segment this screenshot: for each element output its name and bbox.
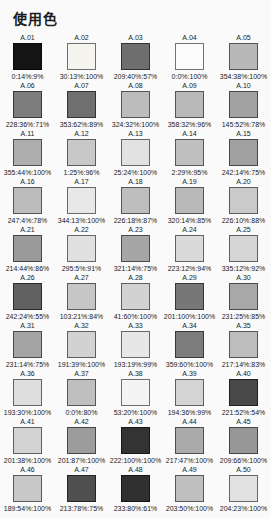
swatch-value: 53:20%:100% xyxy=(109,408,163,417)
color-swatch xyxy=(67,43,96,70)
color-swatch xyxy=(121,91,150,118)
swatch-label: A.15 xyxy=(217,129,271,138)
swatch-cell: A.15242:14%:75% xyxy=(217,129,271,177)
swatch-value: 226:10%:88% xyxy=(217,216,271,225)
swatch-value: 189:54%:100% xyxy=(1,504,55,513)
swatch-cell: A.040:0%:100% xyxy=(163,33,217,81)
swatch-label: A.06 xyxy=(1,81,55,90)
swatch-value: 0:0%:80% xyxy=(55,408,109,417)
swatch-value: 344:13%:100% xyxy=(55,216,109,225)
swatch-cell: A.2841:60%:100% xyxy=(109,273,163,321)
swatch-cell: A.48233:80%:61% xyxy=(109,465,163,513)
swatch-label: A.24 xyxy=(163,225,217,234)
swatch-value: 353:62%:89% xyxy=(55,120,109,129)
swatch-value: 233:80%:61% xyxy=(109,504,163,513)
color-swatch xyxy=(67,139,96,166)
swatch-label: A.44 xyxy=(163,417,217,426)
swatch-value: 209:66%:100% xyxy=(217,456,271,465)
swatch-cell: A.29201:100%:100% xyxy=(163,273,217,321)
swatch-label: A.43 xyxy=(109,417,163,426)
swatch-label: A.31 xyxy=(1,321,55,330)
color-swatch xyxy=(121,379,150,406)
swatch-label: A.41 xyxy=(1,417,55,426)
swatch-value: 203:50%:100% xyxy=(163,504,217,513)
swatch-value: 247:4%:78% xyxy=(1,216,55,225)
color-swatch xyxy=(229,427,258,454)
swatch-value: 1:25%:96% xyxy=(55,168,109,177)
swatch-cell: A.41201:38%:100% xyxy=(1,417,55,465)
color-swatch xyxy=(67,331,96,358)
swatch-label: A.23 xyxy=(109,225,163,234)
color-swatch xyxy=(121,475,150,502)
swatch-label: A.05 xyxy=(217,33,271,42)
color-swatch xyxy=(121,283,150,310)
swatch-value: 226:18%:87% xyxy=(109,216,163,225)
color-swatch xyxy=(13,331,42,358)
swatch-label: A.40 xyxy=(217,369,271,378)
swatch-value: 223:12%:94% xyxy=(163,264,217,273)
color-swatch xyxy=(175,91,204,118)
swatch-cell: A.25335:12%:92% xyxy=(217,225,271,273)
swatch-cell: A.20226:10%:88% xyxy=(217,177,271,225)
swatch-cell: A.19320:14%:85% xyxy=(163,177,217,225)
swatch-cell: A.30231:25%:85% xyxy=(217,273,271,321)
swatch-label: A.16 xyxy=(1,177,55,186)
swatch-cell: A.43222:100%:100% xyxy=(109,417,163,465)
color-swatch xyxy=(229,43,258,70)
swatch-label: A.38 xyxy=(109,369,163,378)
color-swatch xyxy=(175,43,204,70)
swatch-cell: A.40221:52%:54% xyxy=(217,369,271,417)
color-swatch xyxy=(175,283,204,310)
swatch-value: 201:87%:100% xyxy=(55,456,109,465)
swatch-label: A.32 xyxy=(55,321,109,330)
swatch-cell: A.35217:14%:83% xyxy=(217,321,271,369)
swatch-cell: A.16247:4%:78% xyxy=(1,177,55,225)
swatch-value: 358:32%:96% xyxy=(163,120,217,129)
swatch-label: A.02 xyxy=(55,33,109,42)
swatch-label: A.18 xyxy=(109,177,163,186)
swatch-label: A.30 xyxy=(217,273,271,282)
swatch-cell: A.36193:30%:100% xyxy=(1,369,55,417)
swatch-label: A.20 xyxy=(217,177,271,186)
swatch-cell: A.39194:36%:99% xyxy=(163,369,217,417)
swatch-cell: A.33193:19%:99% xyxy=(109,321,163,369)
swatch-value: 242:14%:75% xyxy=(217,168,271,177)
color-swatch xyxy=(175,379,204,406)
color-swatch xyxy=(13,187,42,214)
swatch-value: 191:39%:100% xyxy=(55,360,109,369)
palette-page: 使用色 A.010:14%:9%A.0230:13%:100%A.03209:4… xyxy=(0,0,271,519)
color-swatch xyxy=(229,475,258,502)
swatch-value: 193:19%:99% xyxy=(109,360,163,369)
swatch-cell: A.03209:40%:57% xyxy=(109,33,163,81)
swatch-cell: A.05354:38%:100% xyxy=(217,33,271,81)
swatch-cell: A.24223:12%:94% xyxy=(163,225,217,273)
swatch-value: 231:14%:75% xyxy=(1,360,55,369)
swatch-label: A.08 xyxy=(109,81,163,90)
swatch-cell: A.47213:78%:75% xyxy=(55,465,109,513)
page-title: 使用色 xyxy=(13,8,271,28)
swatch-value: 324:32%:100% xyxy=(109,120,163,129)
swatch-value: 103:21%:84% xyxy=(55,312,109,321)
swatch-label: A.25 xyxy=(217,225,271,234)
color-swatch xyxy=(175,475,204,502)
swatch-cell: A.121:25%:96% xyxy=(55,129,109,177)
swatch-label: A.22 xyxy=(55,225,109,234)
swatch-cell: A.26242:24%:55% xyxy=(1,273,55,321)
color-swatch xyxy=(67,187,96,214)
color-swatch xyxy=(175,331,204,358)
swatch-value: 217:14%:83% xyxy=(217,360,271,369)
color-swatch xyxy=(121,331,150,358)
swatch-cell: A.0230:13%:100% xyxy=(55,33,109,81)
swatch-label: A.26 xyxy=(1,273,55,282)
color-swatch xyxy=(67,427,96,454)
swatch-cell: A.142:29%:95% xyxy=(163,129,217,177)
swatch-cell: A.49203:50%:100% xyxy=(163,465,217,513)
swatch-value: 2:29%:95% xyxy=(163,168,217,177)
swatch-value: 0:14%:9% xyxy=(1,72,55,81)
swatch-label: A.27 xyxy=(55,273,109,282)
swatch-label: A.46 xyxy=(1,465,55,474)
swatch-cell: A.46189:54%:100% xyxy=(1,465,55,513)
swatch-label: A.34 xyxy=(163,321,217,330)
swatch-label: A.39 xyxy=(163,369,217,378)
swatch-label: A.45 xyxy=(217,417,271,426)
